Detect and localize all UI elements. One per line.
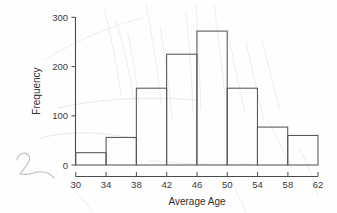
histogram-bar — [227, 88, 257, 165]
histogram-bars — [76, 31, 318, 165]
x-tick-label-30: 30 — [71, 179, 82, 190]
histogram-bar — [76, 153, 106, 165]
x-tick-label-54: 54 — [252, 179, 263, 190]
y-axis: 300 200 100 0 Frequency — [31, 12, 76, 171]
histogram-canvas: 300 200 100 0 Frequency 30 34 38 42 46 5… — [0, 0, 337, 213]
y-tick-label-100: 100 — [52, 110, 68, 121]
y-tick-label-0: 0 — [63, 160, 68, 171]
histogram-bar — [257, 127, 287, 165]
x-tick-label-34: 34 — [101, 179, 112, 190]
x-tick-label-50: 50 — [222, 179, 233, 190]
histogram-bar — [167, 54, 197, 165]
x-axis: 30 34 38 42 46 50 54 58 62 Average Age — [71, 172, 324, 207]
handwritten-scribble — [17, 153, 54, 178]
x-tick-label-58: 58 — [283, 179, 294, 190]
x-tick-label-62: 62 — [313, 179, 324, 190]
x-axis-title: Average Age — [168, 196, 226, 207]
x-tick-label-42: 42 — [161, 179, 172, 190]
histogram-bar — [136, 88, 166, 165]
histogram-figure: 300 200 100 0 Frequency 30 34 38 42 46 5… — [0, 0, 337, 213]
y-tick-label-300: 300 — [52, 12, 68, 23]
histogram-bar — [197, 31, 227, 165]
histogram-bar — [288, 135, 318, 165]
y-axis-title: Frequency — [31, 67, 42, 114]
y-tick-label-200: 200 — [52, 61, 68, 72]
histogram-bar — [106, 137, 136, 165]
x-tick-label-38: 38 — [131, 179, 142, 190]
x-tick-label-46: 46 — [192, 179, 203, 190]
